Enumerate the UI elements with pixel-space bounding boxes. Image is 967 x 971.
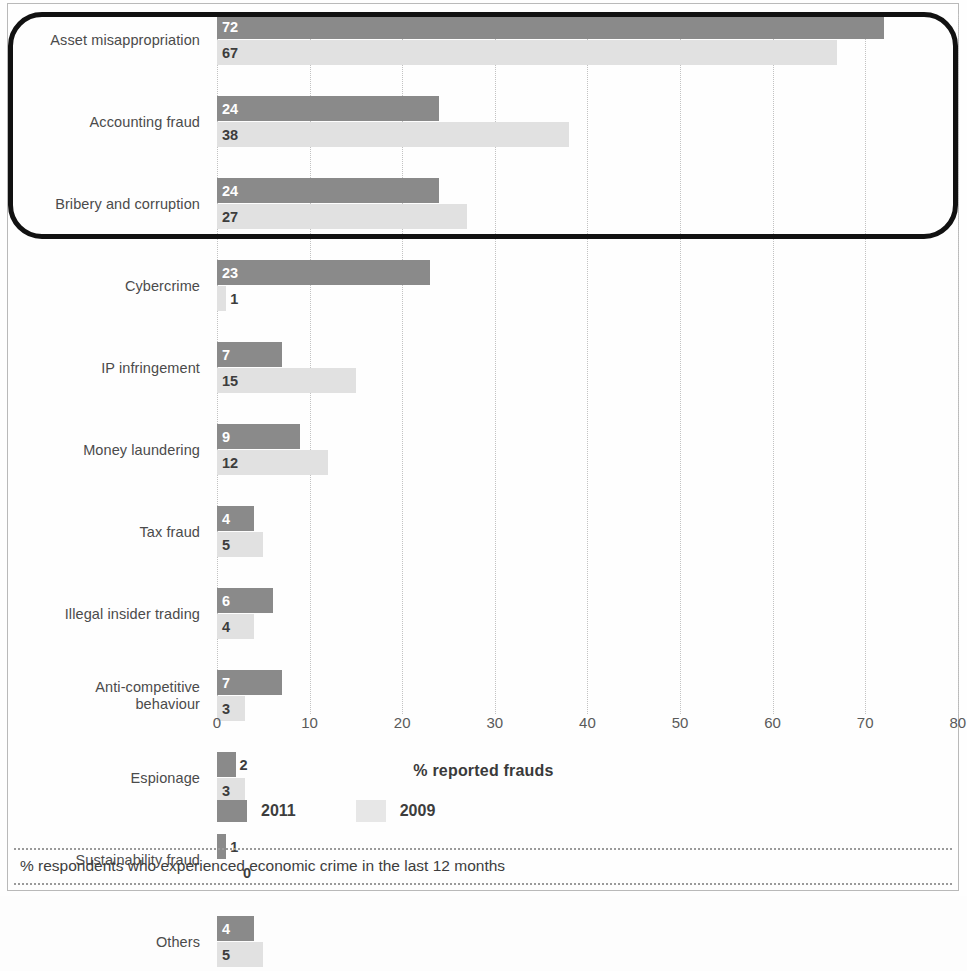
category-label-line: Others bbox=[156, 934, 200, 951]
category-label: Others bbox=[0, 916, 200, 968]
bar-2011: 7 bbox=[217, 670, 282, 695]
bar-group: Asset misappropriation7267 bbox=[0, 14, 967, 66]
bar-value-label: 15 bbox=[222, 373, 238, 389]
legend-label: 2011 bbox=[261, 802, 296, 820]
bar-2009: 5 bbox=[217, 942, 263, 967]
bar-value-label: 7 bbox=[222, 675, 230, 691]
bar-2009: 15 bbox=[217, 368, 356, 393]
bar-2009: 27 bbox=[217, 204, 467, 229]
bar-2011: 7 bbox=[217, 342, 282, 367]
plot-area: Asset misappropriation7267Accounting fra… bbox=[0, 0, 967, 710]
bar-value-label: 3 bbox=[222, 783, 230, 799]
bar-value-label: 27 bbox=[222, 209, 238, 225]
bar-value-label: 72 bbox=[222, 19, 238, 35]
category-label-line: IP infringement bbox=[101, 360, 200, 377]
bar-group: Tax fraud45 bbox=[0, 506, 967, 558]
x-axis-title: % reported frauds bbox=[0, 762, 967, 780]
bar-2011: 24 bbox=[217, 178, 439, 203]
bar-value-label: 23 bbox=[222, 265, 238, 281]
category-label-line: Bribery and corruption bbox=[55, 196, 200, 213]
bar-2011: 23 bbox=[217, 260, 430, 285]
bar-value-label: 6 bbox=[222, 593, 230, 609]
category-label-line: Asset misappropriation bbox=[50, 32, 200, 49]
bar-value-label: 67 bbox=[222, 45, 238, 61]
bar-2011: 4 bbox=[217, 506, 254, 531]
bar-group: Cybercrime231 bbox=[0, 260, 967, 312]
x-axis-tick: 20 bbox=[394, 714, 411, 731]
category-label: Tax fraud bbox=[0, 506, 200, 558]
category-label-line: behaviour bbox=[95, 696, 200, 713]
category-label-line: Cybercrime bbox=[125, 278, 200, 295]
bar-2009: 67 bbox=[217, 40, 837, 65]
bar-2009: 4 bbox=[217, 614, 254, 639]
legend-swatch bbox=[217, 800, 247, 822]
bar-group: IP infringement715 bbox=[0, 342, 967, 394]
legend-item: 2011 bbox=[217, 800, 296, 822]
category-label: Asset misappropriation bbox=[0, 14, 200, 66]
bar-value-label: 1 bbox=[230, 291, 238, 307]
x-axis-tick: 50 bbox=[672, 714, 689, 731]
bar-group: Others45 bbox=[0, 916, 967, 968]
bar-group: Money laundering912 bbox=[0, 424, 967, 476]
bar-value-label: 12 bbox=[222, 455, 238, 471]
x-axis-tick: 60 bbox=[764, 714, 781, 731]
category-label-line: Money laundering bbox=[83, 442, 200, 459]
chart-legend: 20112009 bbox=[217, 800, 495, 822]
bar-2009: 1 bbox=[217, 286, 226, 311]
bar-2009: 38 bbox=[217, 122, 569, 147]
bar-2011: 4 bbox=[217, 916, 254, 941]
legend-label: 2009 bbox=[400, 802, 436, 820]
x-axis-tick: 80 bbox=[949, 714, 966, 731]
bar-group: Bribery and corruption2427 bbox=[0, 178, 967, 230]
category-label: Cybercrime bbox=[0, 260, 200, 312]
bar-value-label: 4 bbox=[222, 921, 230, 937]
bar-value-label: 4 bbox=[222, 511, 230, 527]
bar-value-label: 24 bbox=[222, 101, 238, 117]
bar-2009: 12 bbox=[217, 450, 328, 475]
footnote: % respondents who experienced economic c… bbox=[14, 848, 952, 885]
legend-item: 2009 bbox=[356, 800, 436, 822]
x-axis-tick: 30 bbox=[486, 714, 503, 731]
legend-swatch bbox=[356, 800, 386, 822]
category-label: Money laundering bbox=[0, 424, 200, 476]
bar-value-label: 7 bbox=[222, 347, 230, 363]
bar-2011: 24 bbox=[217, 96, 439, 121]
category-label-line: Illegal insider trading bbox=[65, 606, 200, 623]
bar-value-label: 5 bbox=[222, 537, 230, 553]
bar-2009: 5 bbox=[217, 532, 263, 557]
category-label-line: Tax fraud bbox=[139, 524, 200, 541]
category-label: Illegal insider trading bbox=[0, 588, 200, 640]
bar-value-label: 5 bbox=[222, 947, 230, 963]
x-axis-tick: 70 bbox=[857, 714, 874, 731]
bar-2011: 9 bbox=[217, 424, 300, 449]
x-axis-tick: 10 bbox=[301, 714, 318, 731]
category-label: Bribery and corruption bbox=[0, 178, 200, 230]
bar-groups: Asset misappropriation7267Accounting fra… bbox=[0, 14, 967, 971]
bar-value-label: 38 bbox=[222, 127, 238, 143]
bar-value-label: 24 bbox=[222, 183, 238, 199]
bar-2011: 72 bbox=[217, 14, 884, 39]
bar-group: Accounting fraud2438 bbox=[0, 96, 967, 148]
bar-value-label: 9 bbox=[222, 429, 230, 445]
category-label-line: Anti-competitive bbox=[95, 679, 200, 696]
category-label-line: Accounting fraud bbox=[90, 114, 200, 131]
x-axis-tick: 0 bbox=[213, 714, 221, 731]
category-label: Accounting fraud bbox=[0, 96, 200, 148]
x-axis-tick: 40 bbox=[579, 714, 596, 731]
category-label: IP infringement bbox=[0, 342, 200, 394]
bar-value-label: 4 bbox=[222, 619, 230, 635]
x-axis: 01020304050607080 bbox=[0, 714, 967, 744]
bar-group: Illegal insider trading64 bbox=[0, 588, 967, 640]
bar-2011: 6 bbox=[217, 588, 273, 613]
